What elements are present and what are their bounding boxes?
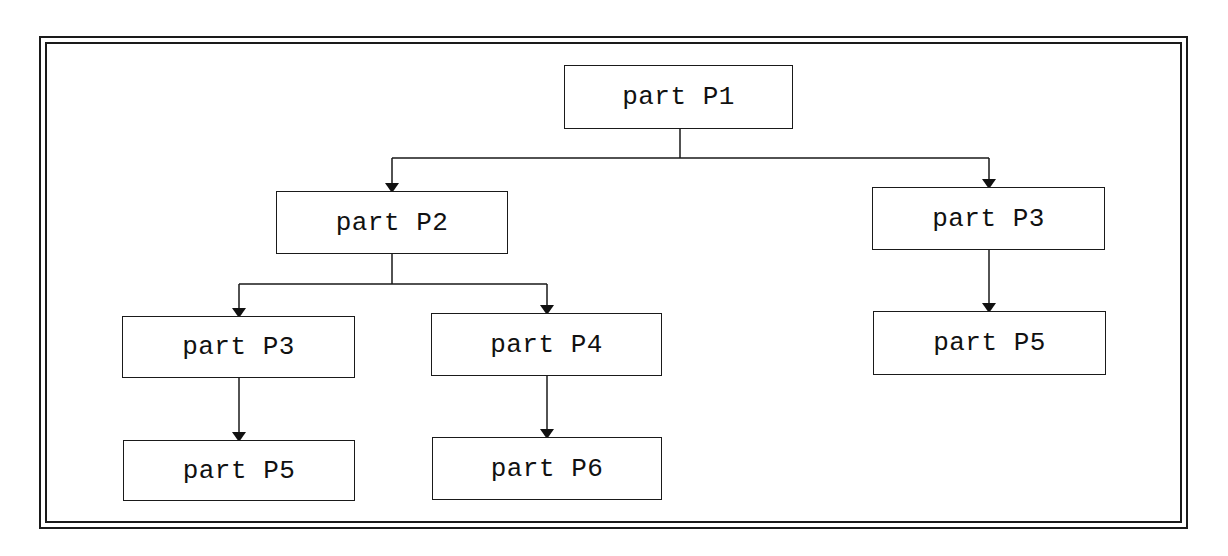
node-part-p5-left: part P5 xyxy=(123,440,355,501)
node-part-p1: part P1 xyxy=(564,65,793,129)
node-part-p5-right: part P5 xyxy=(873,311,1106,375)
node-part-p6: part P6 xyxy=(432,437,662,500)
node-part-p4: part P4 xyxy=(431,313,662,376)
node-part-p3-right: part P3 xyxy=(872,187,1105,250)
node-part-p2: part P2 xyxy=(276,191,508,254)
node-part-p3-left: part P3 xyxy=(122,316,355,378)
